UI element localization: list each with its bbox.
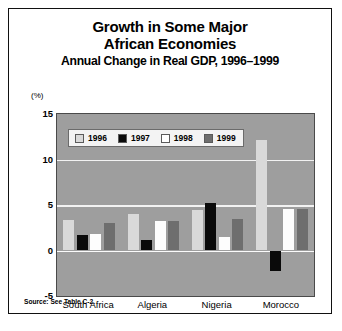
legend-item-1998: 1998: [161, 133, 193, 143]
y-axis-unit-label: (%): [31, 91, 43, 100]
y-axis-tick-15: 15: [13, 108, 53, 119]
bar-morocco-1998: [283, 209, 294, 251]
bar-nigeria-1996: [192, 210, 203, 251]
gridline-10: [57, 160, 314, 162]
bar-south-africa-1996: [63, 220, 74, 251]
bar-algeria-1998: [155, 221, 166, 250]
legend-label-1997: 1997: [131, 133, 150, 143]
bar-morocco-1996: [256, 140, 267, 250]
bar-algeria-1999: [168, 221, 179, 250]
title-block: Growth in Some Major African Economies A…: [9, 9, 331, 69]
bar-south-africa-1997: [77, 235, 88, 250]
chart-title-line-1: Growth in Some Major: [9, 18, 331, 35]
legend-label-1998: 1998: [174, 133, 193, 143]
bar-algeria-1997: [141, 240, 152, 251]
chart-legend: 1996199719981999: [68, 129, 244, 147]
bar-morocco-1999: [297, 209, 308, 251]
x-axis-label-algeria: Algeria: [138, 299, 168, 310]
bar-south-africa-1999: [104, 223, 115, 250]
y-axis-tick-0: 0: [13, 244, 53, 255]
bar-nigeria-1999: [232, 219, 243, 251]
source-note: Source: See Table C-2.: [24, 298, 95, 305]
legend-item-1999: 1999: [204, 133, 236, 143]
bar-nigeria-1998: [219, 237, 230, 251]
legend-swatch-1997: [118, 134, 127, 143]
legend-label-1999: 1999: [217, 133, 236, 143]
legend-item-1996: 1996: [75, 133, 107, 143]
chart-subtitle: Annual Change in Real GDP, 1996–1999: [9, 53, 331, 69]
chart-title-line-2: African Economies: [9, 35, 331, 52]
legend-swatch-1998: [161, 134, 170, 143]
y-axis-tick-10: 10: [13, 153, 53, 164]
legend-swatch-1999: [204, 134, 213, 143]
figure-panel: Growth in Some Major African Economies A…: [8, 8, 332, 314]
legend-item-1997: 1997: [118, 133, 150, 143]
bar-algeria-1996: [128, 214, 139, 250]
bar-morocco-1997: [270, 251, 281, 271]
plot-wrapper: 151050-5 South AfricaAlgeriaNigeriaMoroc…: [56, 113, 315, 297]
legend-swatch-1996: [75, 134, 84, 143]
bar-south-africa-1998: [90, 234, 101, 250]
x-axis-label-morocco: Morocco: [263, 299, 299, 310]
legend-label-1996: 1996: [88, 133, 107, 143]
x-axis-label-nigeria: Nigeria: [202, 299, 232, 310]
gridline-5: [57, 205, 314, 207]
y-axis-tick-5: 5: [13, 199, 53, 210]
bar-nigeria-1997: [205, 203, 216, 250]
